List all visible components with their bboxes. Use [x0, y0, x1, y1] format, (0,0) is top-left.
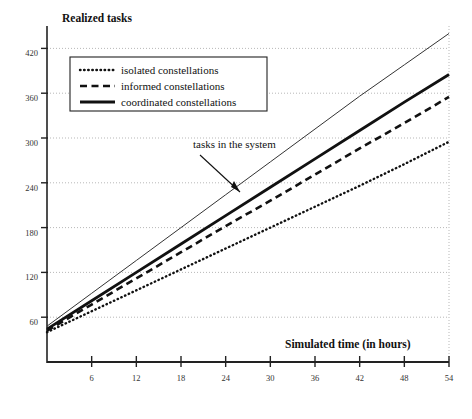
- legend-label: isolated constellations: [121, 64, 218, 76]
- x-tick-label: 42: [355, 373, 364, 383]
- x-axis-title: Simulated time (in hours): [285, 338, 411, 351]
- x-tick-label: 30: [266, 373, 275, 383]
- x-tick-labels: 61218243036424854: [90, 373, 454, 383]
- legend-label: informed constellations: [121, 80, 225, 92]
- y-tick-labels: 60120180240300360420: [25, 48, 38, 327]
- y-tick-label: 180: [25, 228, 38, 238]
- x-tick-label: 18: [177, 373, 186, 383]
- legend: isolated constellationsinformed constell…: [70, 57, 267, 111]
- annotation-group: tasks in the system: [193, 138, 276, 192]
- y-tick-label: 60: [30, 317, 39, 327]
- series-line: [47, 142, 449, 332]
- y-axis-title: Realized tasks: [62, 12, 132, 24]
- series-line: [47, 75, 449, 330]
- x-axis: [47, 356, 449, 367]
- annotation-label: tasks in the system: [193, 138, 276, 150]
- series-line: [47, 97, 449, 331]
- y-tick-label: 360: [25, 93, 38, 103]
- y-axis: [41, 26, 48, 363]
- legend-label: coordinated constellations: [121, 96, 236, 108]
- x-tick-label: 6: [90, 373, 94, 383]
- y-tick-label: 240: [25, 183, 38, 193]
- x-tick-label: 36: [311, 373, 320, 383]
- y-tick-label: 420: [25, 48, 38, 58]
- x-tick-label: 12: [132, 373, 141, 383]
- line-chart: 60120180240300360420 61218243036424854 t…: [0, 0, 472, 419]
- y-tick-label: 120: [25, 272, 38, 282]
- y-tick-label: 300: [25, 138, 38, 148]
- x-tick-label: 48: [400, 373, 409, 383]
- chart-container: 60120180240300360420 61218243036424854 t…: [0, 0, 472, 419]
- x-tick-label: 54: [445, 373, 454, 383]
- x-tick-label: 24: [221, 373, 230, 383]
